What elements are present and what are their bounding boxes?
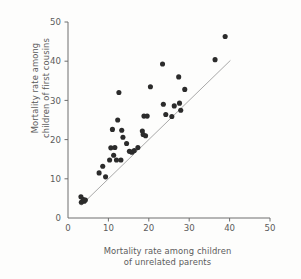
x-axis-label-line1: Mortality rate among children	[104, 246, 232, 256]
data-point	[135, 145, 140, 150]
data-point	[177, 101, 182, 106]
y-axis-label-container: Mortality rate among children of first c…	[30, 8, 54, 168]
data-point	[178, 108, 183, 113]
data-point	[120, 135, 125, 140]
x-tick-label: 20	[143, 223, 154, 233]
data-point	[182, 87, 187, 92]
data-point	[163, 112, 168, 117]
x-tick-label: 0	[65, 223, 70, 233]
data-point	[148, 84, 153, 89]
data-point	[114, 157, 119, 162]
data-point	[143, 133, 148, 138]
x-tick-label: 10	[103, 223, 114, 233]
reference-line	[81, 60, 230, 205]
data-point	[213, 57, 218, 62]
data-point	[103, 174, 108, 179]
data-point	[116, 90, 121, 95]
y-axis-label-line1: Mortality rate among	[30, 43, 40, 133]
data-point	[118, 157, 123, 162]
data-point	[161, 102, 166, 107]
data-point	[83, 197, 88, 202]
data-points	[78, 34, 227, 205]
x-tick-label: 40	[224, 223, 235, 233]
data-point	[176, 74, 181, 79]
data-point	[145, 114, 150, 119]
y-tick-label: 10	[50, 174, 61, 184]
data-point	[169, 114, 174, 119]
data-point	[223, 34, 228, 39]
data-point	[97, 170, 102, 175]
data-point	[111, 153, 116, 158]
data-point	[110, 127, 115, 132]
data-point	[112, 145, 117, 150]
data-point	[115, 117, 120, 122]
data-point	[100, 164, 105, 169]
data-point	[124, 141, 129, 146]
data-point	[172, 103, 177, 108]
data-point	[119, 128, 124, 133]
x-axis-label-line2: of unrelated parents	[124, 257, 211, 267]
y-axis-label: Mortality rate among children of first c…	[30, 8, 51, 168]
scatter-plot-figure: 0102030405001020304050 Mortality rate am…	[0, 0, 301, 279]
equality-reference-line	[81, 60, 230, 205]
x-axis-label: Mortality rate among children of unrelat…	[0, 246, 301, 267]
data-point	[107, 157, 112, 162]
y-tick-label: 0	[56, 213, 61, 223]
x-tick-label: 50	[265, 223, 276, 233]
x-tick-label: 30	[184, 223, 195, 233]
y-axis-label-line2: children of first cousins	[41, 38, 51, 138]
data-point	[160, 61, 165, 66]
